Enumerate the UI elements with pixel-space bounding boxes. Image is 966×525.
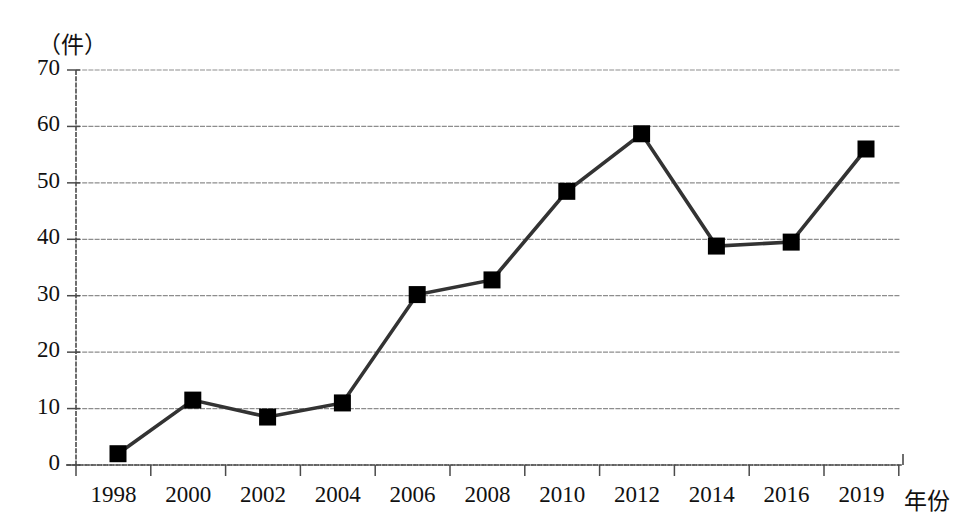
x-tick-label-1998: 1998 bbox=[76, 482, 151, 508]
data-point-2016 bbox=[783, 234, 800, 251]
x-tick-label-2006: 2006 bbox=[375, 482, 450, 508]
series-line-group bbox=[118, 134, 866, 454]
data-point-2000 bbox=[184, 392, 201, 409]
data-point-2014 bbox=[708, 238, 725, 255]
x-tick-label-2012: 2012 bbox=[600, 482, 675, 508]
y-tick-label-60: 60 bbox=[14, 111, 60, 137]
y-tick-label-50: 50 bbox=[14, 168, 60, 194]
data-point-2006 bbox=[409, 286, 426, 303]
x-tick-label-2014: 2014 bbox=[674, 482, 749, 508]
chart-canvas bbox=[0, 0, 966, 525]
series-line bbox=[118, 134, 866, 454]
y-tick-label-70: 70 bbox=[14, 55, 60, 81]
y-tick-label-10: 10 bbox=[14, 394, 60, 420]
y-tick-label-20: 20 bbox=[14, 337, 60, 363]
data-point-2019 bbox=[858, 141, 875, 158]
data-point-1998 bbox=[110, 445, 127, 462]
data-point-2002 bbox=[259, 409, 276, 426]
x-tick-label-2016: 2016 bbox=[749, 482, 824, 508]
data-point-2010 bbox=[558, 183, 575, 200]
x-tick-label-2019: 2019 bbox=[824, 482, 899, 508]
x-tick-marks-group bbox=[76, 465, 899, 476]
data-point-2004 bbox=[334, 394, 351, 411]
x-tick-label-2002: 2002 bbox=[226, 482, 301, 508]
series-markers-group bbox=[110, 125, 875, 462]
data-point-2008 bbox=[484, 271, 501, 288]
y-tick-label-0: 0 bbox=[14, 450, 60, 476]
line-chart: （件） 706050403020100 19982000200220042006… bbox=[0, 0, 966, 525]
x-tick-label-2000: 2000 bbox=[151, 482, 226, 508]
y-tick-label-30: 30 bbox=[14, 281, 60, 307]
x-tick-label-2004: 2004 bbox=[300, 482, 375, 508]
x-tick-label-2010: 2010 bbox=[525, 482, 600, 508]
y-tick-label-40: 40 bbox=[14, 224, 60, 250]
x-axis-title: 年份 bbox=[904, 482, 950, 516]
data-point-2012 bbox=[633, 125, 650, 142]
x-tick-label-2008: 2008 bbox=[450, 482, 525, 508]
